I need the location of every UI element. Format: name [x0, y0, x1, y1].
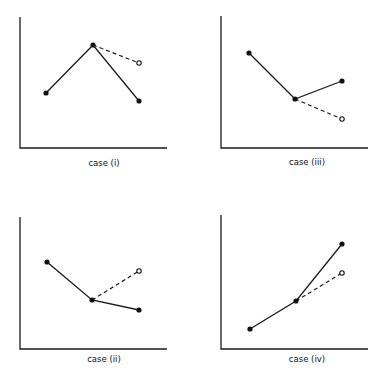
axes	[20, 17, 167, 148]
axes	[20, 217, 167, 349]
solid-line	[47, 262, 139, 310]
filled-point	[293, 298, 298, 303]
dashed-line	[92, 271, 139, 300]
panel-3	[20, 217, 167, 349]
axes	[221, 16, 368, 148]
panel-caption: case (i)	[88, 158, 119, 168]
filled-point	[136, 307, 141, 312]
filled-point	[89, 297, 94, 302]
filled-point	[136, 98, 141, 103]
panel-1	[20, 17, 167, 148]
panel-caption: case (ii)	[87, 354, 121, 364]
filled-point	[90, 42, 95, 47]
open-point	[137, 61, 141, 65]
diagram-canvas	[0, 0, 381, 373]
filled-point	[43, 90, 48, 95]
open-point	[137, 269, 141, 273]
panel-2	[221, 16, 368, 148]
filled-point	[339, 241, 344, 246]
panel-4	[221, 215, 368, 349]
solid-line	[250, 244, 342, 329]
filled-point	[247, 326, 252, 331]
filled-point	[292, 96, 297, 101]
dashed-line	[295, 99, 342, 119]
axes	[221, 215, 368, 349]
solid-line	[249, 53, 342, 99]
open-point	[340, 117, 344, 121]
filled-point	[339, 78, 344, 83]
open-point	[340, 271, 344, 275]
panel-caption: case (iv)	[289, 354, 325, 364]
filled-point	[44, 259, 49, 264]
panel-caption: case (iii)	[289, 157, 325, 167]
filled-point	[246, 50, 251, 55]
solid-line	[46, 45, 139, 101]
dashed-line	[296, 273, 342, 301]
